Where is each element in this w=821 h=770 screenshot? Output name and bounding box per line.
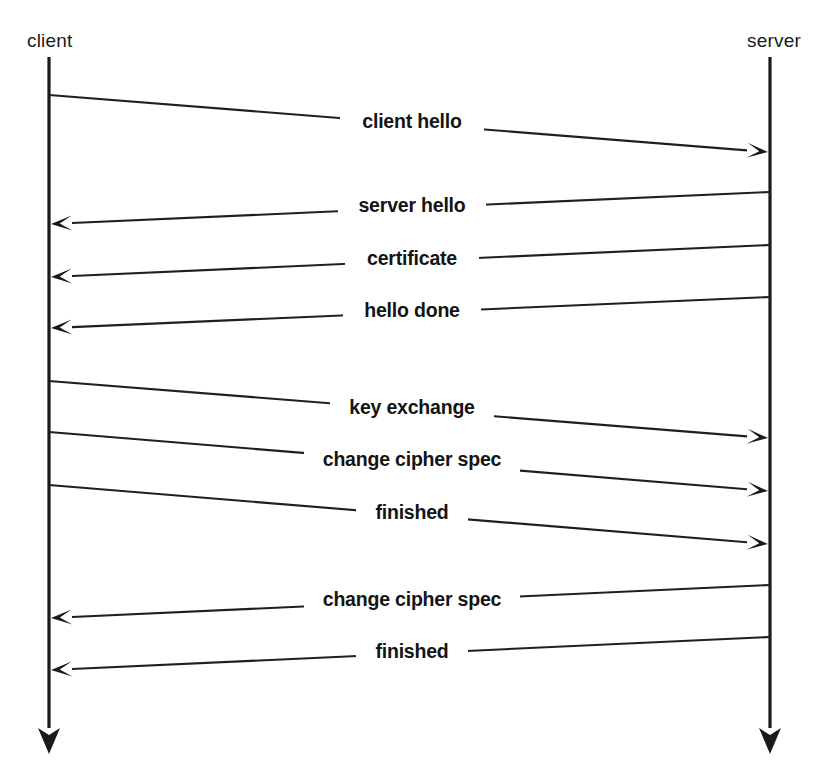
- message-arrow-icon-left: [51, 320, 72, 335]
- message-2-server-hello: server hello: [51, 192, 770, 231]
- lifeline-label-client: client: [27, 30, 73, 51]
- message-arrow-icon-left: [51, 216, 72, 231]
- message-arrow-icon-right: [746, 429, 768, 444]
- message-5-key-exchange: key exchange: [49, 381, 768, 444]
- lifeline-client: [38, 57, 60, 754]
- sequence-diagram-canvas: client helloserver hellocertificatehello…: [0, 0, 821, 770]
- lifeline-server: [759, 57, 781, 754]
- message-label: client hello: [362, 110, 462, 132]
- message-arrow-icon-right: [746, 482, 768, 497]
- messages-group: client helloserver hellocertificatehello…: [49, 95, 770, 677]
- sequence-diagram-svg: client helloserver hellocertificatehello…: [0, 0, 821, 770]
- message-1-client-hello: client hello: [49, 95, 768, 158]
- message-7-finished: finished: [49, 485, 768, 550]
- message-label: finished: [375, 501, 448, 523]
- message-arrow-icon-left: [51, 662, 72, 677]
- lifeline-label-server: server: [747, 30, 801, 51]
- message-label: key exchange: [349, 396, 475, 418]
- lifeline-terminator-arrow-icon-client: [38, 728, 60, 754]
- message-arrow-icon-left: [51, 610, 72, 625]
- message-label: server hello: [358, 194, 465, 216]
- message-arrow-icon-right: [746, 535, 768, 550]
- message-label: change cipher spec: [323, 588, 502, 610]
- lifeline-terminator-arrow-icon-server: [759, 728, 781, 754]
- message-3-certificate: certificate: [51, 245, 770, 284]
- lifeline-labels-group: clientserver: [27, 30, 801, 51]
- message-arrow-icon-right: [746, 143, 768, 158]
- message-4-hello-done: hello done: [51, 297, 770, 335]
- message-arrow-icon-left: [51, 269, 72, 284]
- message-6-change-cipher-spec: change cipher spec: [49, 432, 768, 497]
- message-label: hello done: [364, 299, 460, 321]
- message-label: certificate: [367, 247, 457, 269]
- message-label: change cipher spec: [323, 448, 502, 470]
- message-9-finished: finished: [51, 637, 770, 677]
- message-label: finished: [375, 640, 448, 662]
- message-8-change-cipher-spec: change cipher spec: [51, 585, 770, 625]
